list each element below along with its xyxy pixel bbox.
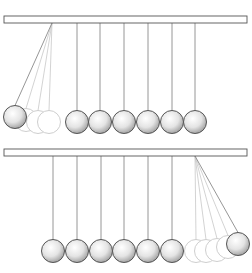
ghost-string — [38, 23, 52, 111]
swing-string — [195, 156, 238, 233]
top-bar — [4, 16, 247, 23]
swinging-ball — [4, 106, 27, 129]
swinging-ball — [227, 233, 250, 256]
ghost-string — [195, 156, 217, 239]
ball — [161, 111, 184, 134]
ball — [66, 240, 89, 263]
ball — [161, 240, 184, 263]
ball — [89, 111, 112, 134]
top-panel — [4, 16, 248, 134]
top-bar — [4, 149, 247, 156]
ghost-string — [49, 23, 52, 111]
ball — [90, 240, 113, 263]
newtons-cradle-illustration — [0, 0, 252, 273]
ball — [137, 240, 160, 263]
ball — [184, 111, 207, 134]
ball — [113, 240, 136, 263]
ball — [66, 111, 89, 134]
ball — [137, 111, 160, 134]
ghost-string — [195, 156, 196, 240]
ghost-ball — [38, 111, 61, 134]
ball — [113, 111, 136, 134]
bottom-panel — [4, 149, 250, 263]
swing-string — [15, 23, 52, 106]
ball — [42, 240, 65, 263]
ghost-string — [26, 23, 52, 109]
cradle-drawing — [0, 0, 252, 273]
